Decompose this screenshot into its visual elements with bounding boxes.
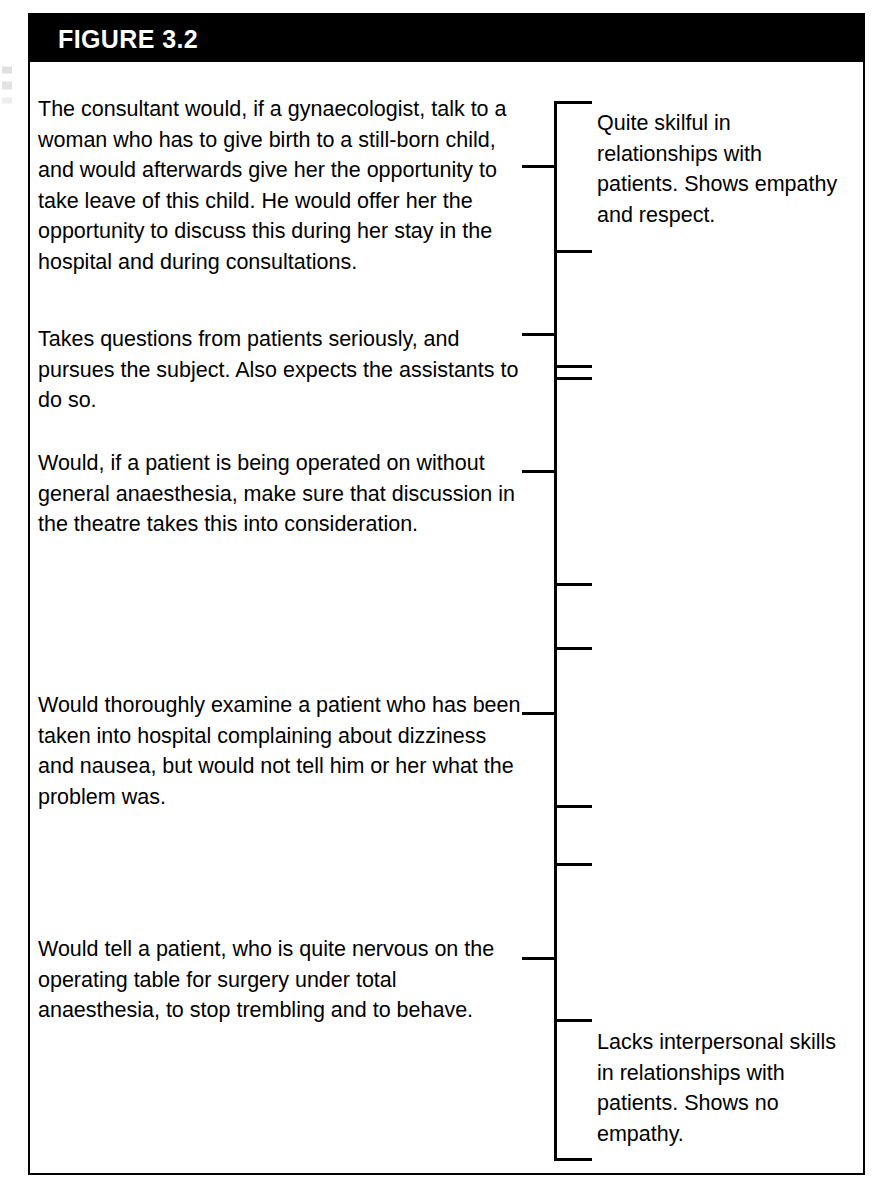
tick-anchor-3 [522, 470, 557, 473]
tick-point-3 [554, 377, 592, 380]
figure-header-bar: FIGURE 3.2 [30, 15, 863, 62]
tick-point-4 [554, 583, 592, 586]
figure-page: FIGURE 3.2 The consultant would, if a gy… [0, 0, 891, 1200]
tick-point-8 [554, 1019, 592, 1022]
tick-point-6 [554, 805, 592, 808]
scale-cap-top [554, 101, 592, 104]
scan-edge-artifact [2, 62, 12, 110]
tick-point-7 [554, 863, 592, 866]
descriptor-high: Quite skilful in relationships with pati… [597, 108, 849, 230]
tick-point-1 [554, 250, 592, 253]
tick-anchor-1 [522, 165, 557, 168]
rating-scale: Quite skilful in relationships with pati… [30, 62, 863, 1173]
scale-cap-bottom [554, 1158, 592, 1161]
tick-point-5 [554, 647, 592, 650]
scale-axis-line [554, 101, 557, 1161]
figure-frame: FIGURE 3.2 The consultant would, if a gy… [28, 13, 865, 1175]
figure-label: FIGURE 3.2 [58, 24, 198, 53]
tick-anchor-2 [522, 333, 557, 336]
descriptor-low: Lacks interpersonal skills in relationsh… [597, 1027, 849, 1149]
figure-body: The consultant would, if a gynaecologist… [30, 62, 863, 1173]
tick-anchor-5 [522, 957, 557, 960]
tick-point-2 [554, 365, 592, 368]
tick-anchor-4 [522, 712, 557, 715]
